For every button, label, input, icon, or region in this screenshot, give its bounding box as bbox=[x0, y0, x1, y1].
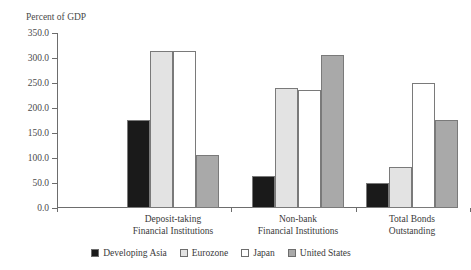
bar-united-states bbox=[435, 120, 458, 209]
x-axis-category-label: Non-bankFinancial Institutions bbox=[258, 214, 338, 237]
legend-item-united-states[interactable]: United States bbox=[288, 248, 351, 258]
legend-swatch-icon bbox=[180, 249, 188, 257]
x-axis-category-label: Total BondsOutstanding bbox=[389, 214, 435, 237]
y-axis-tick bbox=[52, 83, 57, 84]
bar-japan bbox=[298, 90, 321, 208]
y-axis-tick-label: 250.0 bbox=[28, 78, 49, 88]
y-axis-tick-label: 150.0 bbox=[28, 128, 49, 138]
y-axis-tick bbox=[52, 58, 57, 59]
x-axis-category-line: Financial Institutions bbox=[133, 226, 213, 238]
legend-item-japan[interactable]: Japan bbox=[241, 248, 275, 258]
legend-item-developing-asia[interactable]: Developing Asia bbox=[91, 248, 167, 258]
plot-area: 0.050.0100.0150.0200.0250.0300.0350.0 bbox=[57, 33, 435, 208]
bar-developing-asia bbox=[366, 183, 389, 209]
y-axis-tick-label: 0.0 bbox=[37, 203, 49, 213]
legend-label: Japan bbox=[253, 248, 275, 258]
x-axis-category-line: Deposit-taking bbox=[133, 214, 213, 226]
x-axis-tick bbox=[356, 208, 357, 212]
bar-eurozone bbox=[150, 51, 173, 209]
y-axis-title: Percent of GDP bbox=[26, 12, 86, 22]
y-axis-tick bbox=[52, 183, 57, 184]
x-axis-tick bbox=[231, 208, 232, 212]
y-axis-tick-label: 300.0 bbox=[28, 53, 49, 63]
legend-swatch-icon bbox=[91, 249, 99, 257]
x-axis-category-line: Outstanding bbox=[389, 226, 435, 238]
legend-item-eurozone[interactable]: Eurozone bbox=[180, 248, 228, 258]
bar-united-states bbox=[196, 155, 219, 208]
x-axis-category-label: Deposit-takingFinancial Institutions bbox=[133, 214, 213, 237]
y-axis-line bbox=[57, 33, 58, 208]
y-axis-tick bbox=[52, 108, 57, 109]
x-axis-category-line: Non-bank bbox=[258, 214, 338, 226]
y-axis-tick-label: 350.0 bbox=[28, 28, 49, 38]
x-axis-category-line: Financial Institutions bbox=[258, 226, 338, 238]
legend-label: Eurozone bbox=[192, 248, 228, 258]
bar-eurozone bbox=[275, 88, 298, 208]
x-axis-category-line: Total Bonds bbox=[389, 214, 435, 226]
y-axis-tick-label: 100.0 bbox=[28, 153, 49, 163]
bar-developing-asia bbox=[127, 120, 150, 208]
chart-legend: Developing AsiaEurozoneJapanUnited State… bbox=[0, 248, 442, 258]
bar-developing-asia bbox=[252, 176, 275, 208]
bar-japan bbox=[173, 51, 196, 208]
legend-label: Developing Asia bbox=[103, 248, 167, 258]
y-axis-tick-label: 200.0 bbox=[28, 103, 49, 113]
bar-united-states bbox=[321, 55, 344, 208]
y-axis-tick bbox=[52, 133, 57, 134]
legend-swatch-icon bbox=[241, 249, 249, 257]
y-axis-tick bbox=[52, 33, 57, 34]
bar-japan bbox=[412, 83, 435, 208]
bar-eurozone bbox=[389, 167, 412, 208]
legend-swatch-icon bbox=[288, 249, 296, 257]
x-axis-tick bbox=[57, 208, 58, 212]
y-axis-tick-label: 50.0 bbox=[32, 178, 49, 188]
legend-label: United States bbox=[300, 248, 351, 258]
y-axis-tick bbox=[52, 158, 57, 159]
